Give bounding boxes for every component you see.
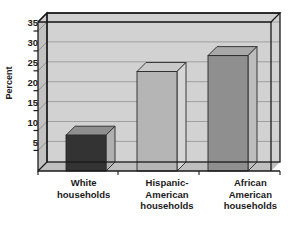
x-axis-label-white-households: White households [42,177,125,200]
plot-top-cap [38,13,280,22]
bar-front-face [208,56,248,171]
bar-front-face [137,72,177,172]
x-axis-category-labels: White households Hispanic- American hous… [42,177,292,227]
label-line: Hispanic- [126,177,207,189]
label-line: households [43,189,124,201]
bar-hispanic-american-households [137,63,186,172]
bar-side-face [248,47,257,171]
label-line: American [210,189,291,201]
label-line: African [210,177,291,189]
x-axis-label-african-american-households: African American households [209,177,292,212]
bar-white-households [66,126,115,171]
label-line: American [126,189,207,201]
bar-chart: Percent 35 30 25 20 15 10 5 [0,0,297,227]
y-axis-ticks [34,31,39,150]
plot-left-wall [38,13,47,171]
bar-side-face [177,63,186,172]
x-axis-label-hispanic-american-households: Hispanic- American households [125,177,208,212]
label-line: households [210,200,291,212]
bar-front-face [66,135,106,171]
bar-african-american-households [208,47,257,171]
label-line: households [126,200,207,212]
label-line: White [43,177,124,189]
